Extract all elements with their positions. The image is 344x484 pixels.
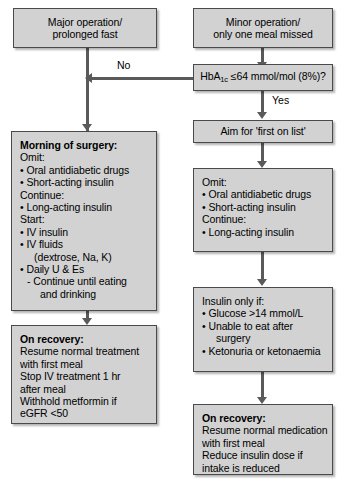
right-continue-item-1: Long-acting insulin (202, 226, 332, 238)
morning-start-label: Start: (20, 213, 156, 225)
node-major-operation: Major operation/ prolonged fast (13, 8, 157, 48)
hba1c-suffix: ≤64 mmol/mol (8%)? (228, 70, 326, 82)
connector-insulin-to-recovery (261, 372, 264, 398)
minor-operation-line2: only one meal missed (213, 28, 313, 40)
right-recovery-line-1: Resume normal medication (202, 424, 332, 436)
insulin-only-if-item-1: Glucose >14 mmol/L (202, 307, 332, 319)
insulin-only-if-item-3: Ketonuria or ketonaemia (202, 345, 332, 357)
aim-first-on-list-text: Aim for 'first on list' (220, 125, 305, 137)
major-operation-line1: Major operation/ (48, 16, 122, 28)
right-continue-label: Continue: (202, 213, 332, 225)
arrowhead-morning-to-recovery (82, 318, 92, 325)
connector-no-branch (92, 77, 195, 80)
edge-label-no: No (117, 59, 130, 71)
connector-omit-to-insulin (261, 252, 264, 280)
edge-label-yes: Yes (272, 94, 289, 106)
morning-omit-item-2: Short-acting insulin (20, 176, 156, 188)
connector-aim-to-omit (261, 143, 264, 163)
right-omit-item-2: Short-acting insulin (202, 201, 332, 213)
left-recovery-line-1: Resume normal treatment (20, 345, 156, 357)
insulin-only-if-item-2-cont: surgery (202, 332, 332, 344)
arrowhead-aim-to-omit (257, 161, 267, 168)
node-insulin-only-if: Insulin only if: Glucose >14 mmol/L Unab… (193, 287, 333, 372)
node-left-on-recovery: On recovery: Resume normal treatment wit… (11, 325, 157, 424)
left-recovery-heading: On recovery: (20, 333, 156, 345)
left-recovery-line-5: Withhold metformin if (20, 395, 156, 407)
hba1c-subscript: 1c (220, 75, 228, 84)
arrowhead-major-to-morning (82, 124, 92, 131)
left-recovery-line-6: eGFR <50 (20, 407, 156, 419)
morning-start-item-3-sub: Continue until eating (20, 275, 156, 287)
arrowhead-no-branch (85, 73, 92, 83)
left-recovery-line-3: Stop IV treatment 1 hr (20, 370, 156, 382)
connector-major-down (86, 48, 89, 131)
right-omit-item-1: Oral antidiabetic drugs (202, 188, 332, 200)
morning-heading: Morning of surgery: (20, 139, 156, 151)
hba1c-prefix: HbA (200, 70, 220, 82)
hba1c-decision-text: HbA1c ≤64 mmol/mol (8%)? (200, 70, 326, 84)
morning-omit-item-1: Oral antidiabetic drugs (20, 164, 156, 176)
arrowhead-yes-branch (257, 112, 267, 119)
morning-continue-item-1: Long-acting insulin (20, 201, 156, 213)
right-recovery-line-4: intake is reduced (202, 462, 332, 474)
right-recovery-line-2: with first meal (202, 437, 332, 449)
morning-continue-label: Continue: (20, 189, 156, 201)
arrowhead-insulin-to-recovery (257, 397, 267, 404)
left-recovery-line-4: after meal (20, 383, 156, 395)
insulin-only-if-label: Insulin only if: (202, 295, 332, 307)
major-operation-line2: prolonged fast (52, 28, 117, 40)
insulin-only-if-item-2: Unable to eat after (202, 320, 332, 332)
morning-start-item-1: IV insulin (20, 226, 156, 238)
arrowhead-omit-to-insulin (257, 279, 267, 286)
node-morning-of-surgery: Morning of surgery: Omit: Oral antidiabe… (11, 131, 157, 311)
node-right-omit: Omit: Oral antidiabetic drugs Short-acti… (193, 168, 333, 252)
node-minor-operation: Minor operation/ only one meal missed (193, 8, 333, 48)
morning-start-item-3: Daily U & Es (20, 263, 156, 275)
morning-start-item-3-sub-cont: and drinking (20, 288, 156, 300)
flowchart-diagram: No Yes Major operation/ prolonged fast M… (0, 0, 344, 484)
node-right-on-recovery: On recovery: Resume normal medication wi… (193, 404, 333, 475)
morning-start-item-2-cont: (dextrose, Na, K) (20, 251, 156, 263)
left-recovery-line-2: with first meal (20, 358, 156, 370)
morning-start-item-2: IV fluids (20, 238, 156, 250)
minor-operation-line1: Minor operation/ (226, 16, 300, 28)
right-recovery-heading: On recovery: (202, 412, 332, 424)
node-aim-first-on-list: Aim for 'first on list' (193, 120, 333, 143)
morning-omit-label: Omit: (20, 151, 156, 163)
right-recovery-line-3: Reduce insulin dose if (202, 449, 332, 461)
right-omit-label: Omit: (202, 176, 332, 188)
node-hba1c-decision: HbA1c ≤64 mmol/mol (8%)? (193, 64, 333, 91)
connector-yes-branch (261, 91, 264, 113)
